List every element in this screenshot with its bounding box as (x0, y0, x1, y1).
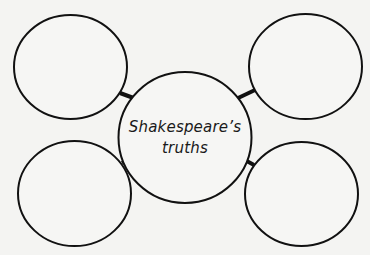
node-top-left[interactable] (14, 15, 127, 119)
concept-web-diagram: Shakespeare’s truths (0, 0, 370, 255)
center-node-label: Shakespeare’s truths (118, 72, 252, 203)
center-label-line1: Shakespeare’s (129, 117, 241, 138)
center-label-line2: truths (162, 138, 208, 159)
node-bottom-right[interactable] (245, 142, 358, 246)
node-bottom-left[interactable] (18, 141, 131, 246)
node-top-right[interactable] (249, 14, 362, 119)
